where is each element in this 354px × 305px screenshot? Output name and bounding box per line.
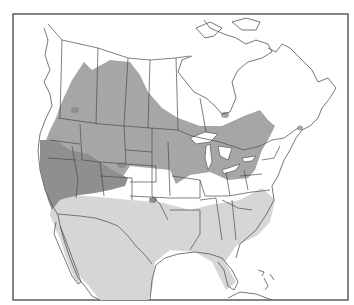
year-round-spot [71, 107, 79, 113]
year-round-spot-3 [117, 162, 127, 168]
range-map [0, 0, 354, 305]
